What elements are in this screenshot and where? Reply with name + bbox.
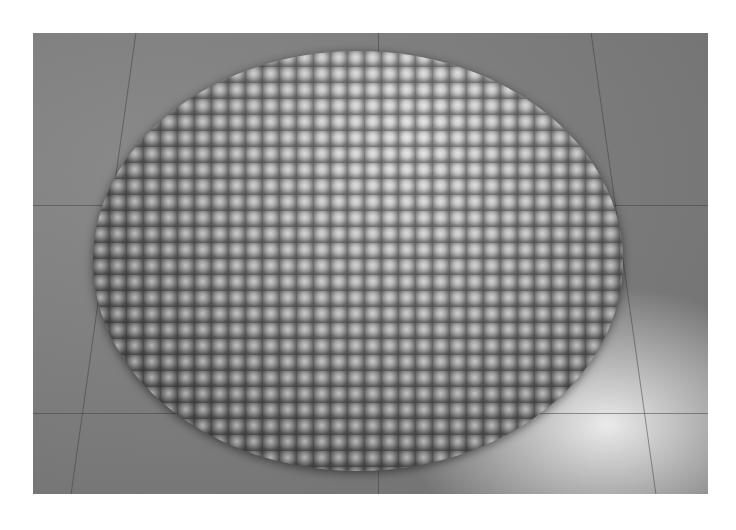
image-description: Black-and-white photograph of a large ci… — [33, 33, 34, 34]
photograph: Black-and-white photograph of a large ci… — [33, 33, 708, 494]
clay-pots — [93, 51, 623, 471]
clay-pot-circle — [93, 51, 623, 471]
